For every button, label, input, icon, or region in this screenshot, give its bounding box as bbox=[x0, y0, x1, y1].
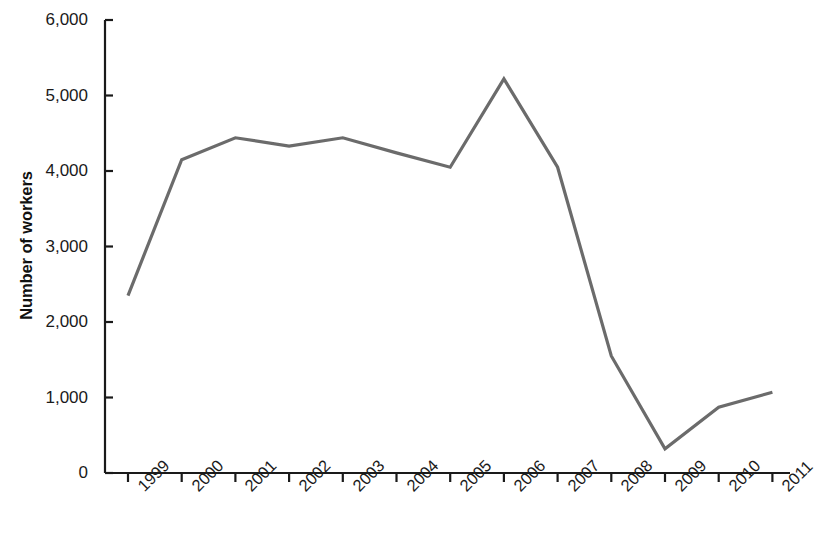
data-series-line bbox=[128, 79, 772, 449]
axis-lines bbox=[105, 20, 790, 473]
x-axis-ticks bbox=[128, 473, 772, 482]
y-axis-ticks bbox=[105, 20, 113, 473]
